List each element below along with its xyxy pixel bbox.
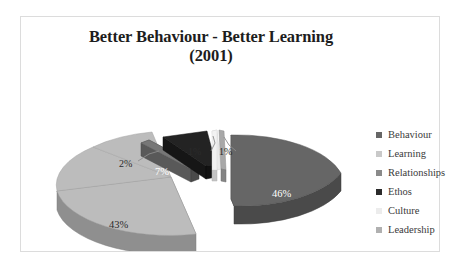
data-label-ethos: 7%: [155, 166, 169, 177]
legend-item-leadership[interactable]: Leadership: [376, 220, 462, 239]
chart-title-line-2: (2001): [51, 46, 371, 65]
legend-item-relationships[interactable]: Relationships: [376, 163, 462, 182]
legend-label-learning: Learning: [388, 148, 426, 159]
chart-frame: Better Behaviour - Better Learning (2001…: [20, 16, 440, 252]
chart-legend: Behaviour Learning Relationships Ethos C…: [376, 125, 462, 239]
data-label-behaviour: 46%: [272, 188, 291, 199]
data-label-relationships: 2%: [119, 158, 132, 169]
data-label-learning: 43%: [109, 219, 128, 230]
pie-chart-svg: [21, 69, 371, 251]
legend-swatch-relationships: [376, 170, 382, 176]
legend-label-behaviour: Behaviour: [388, 129, 432, 140]
legend-swatch-culture: [376, 208, 382, 214]
legend-swatch-behaviour: [376, 132, 382, 138]
pie-chart-plot-area: 46% 43% 2% 7% 1% 1%: [21, 69, 371, 251]
legend-swatch-learning: [376, 151, 382, 157]
data-label-culture: 1%: [188, 146, 201, 157]
legend-item-behaviour[interactable]: Behaviour: [376, 125, 462, 144]
legend-label-ethos: Ethos: [388, 186, 412, 197]
legend-swatch-leadership: [376, 227, 382, 233]
legend-label-leadership: Leadership: [388, 224, 435, 235]
legend-item-culture[interactable]: Culture: [376, 201, 462, 220]
legend-swatch-ethos: [376, 189, 382, 195]
legend-item-learning[interactable]: Learning: [376, 144, 462, 163]
legend-label-relationships: Relationships: [388, 167, 445, 178]
pie-slice-behaviour[interactable]: [231, 135, 341, 224]
legend-item-ethos[interactable]: Ethos: [376, 182, 462, 201]
legend-label-culture: Culture: [388, 205, 420, 216]
data-label-leadership: 1%: [219, 146, 232, 157]
chart-title-line-1: Better Behaviour - Better Learning: [89, 27, 333, 46]
chart-title: Better Behaviour - Better Learning (2001…: [51, 27, 371, 65]
